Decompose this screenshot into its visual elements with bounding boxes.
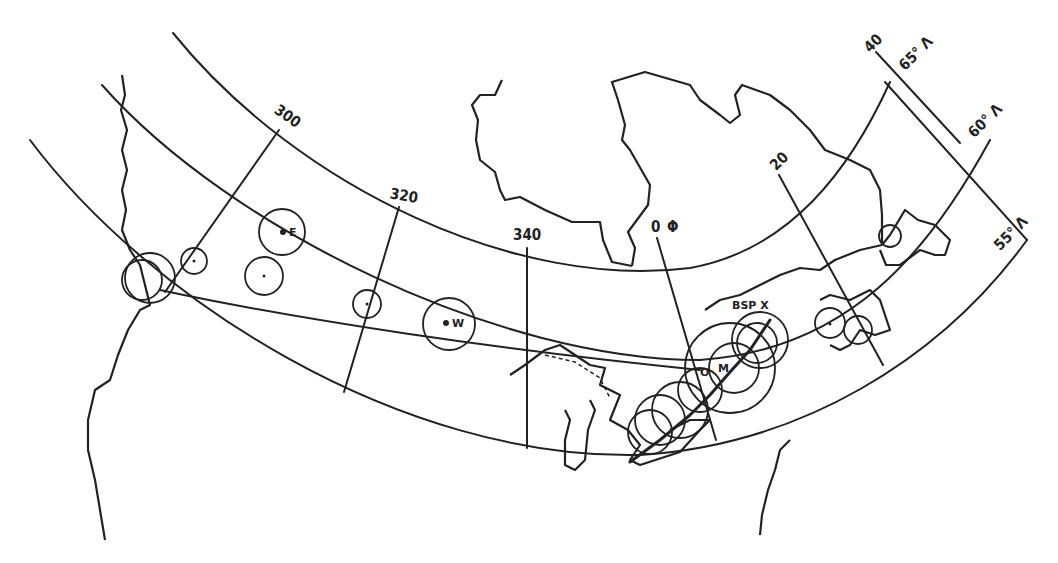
geomagnetic-map: 300 320 340 0 Φ 20 40 65° Λ 60° Λ 55° Λ …: [0, 0, 1058, 563]
atlantic-coast: [760, 440, 790, 535]
label-station-W: W: [452, 317, 464, 330]
label-300: 300: [271, 101, 304, 132]
hudson-bay-west: [472, 80, 632, 266]
latitude-labels: 65° Λ 60° Λ 55° Λ: [895, 32, 1032, 254]
map-canvas: 300 320 340 0 Φ 20 40 65° Λ 60° Λ 55° Λ …: [0, 0, 1058, 563]
dot-E: [280, 229, 286, 235]
dot-W: [443, 320, 449, 326]
label-phi: Φ: [667, 218, 678, 236]
label-lat55: 55° Λ: [990, 212, 1032, 254]
label-station-BSP: BSP X: [732, 299, 769, 312]
arc-outer-edge: [885, 82, 1027, 240]
lake-michigan: [565, 400, 595, 470]
label-station-M: M: [718, 362, 729, 375]
label-station-E: E: [289, 226, 297, 239]
label-lat60: 60° Λ: [964, 99, 1006, 141]
circle-station-W: [423, 298, 475, 350]
meridian-labels: 300 320 340 0 Φ 20 40: [271, 30, 886, 244]
label-320: 320: [389, 184, 420, 207]
label-lat65: 65° Λ: [895, 32, 937, 74]
label-0: 0: [651, 218, 660, 236]
label-station-O: O: [700, 366, 709, 379]
meridian-320: [344, 207, 399, 392]
latitude-arcs: [30, 33, 1027, 455]
meridian-40: [876, 52, 960, 143]
coastlines: [88, 72, 950, 540]
border-dashed: [545, 355, 610, 398]
labrador-newfoundland: [880, 210, 950, 265]
station-circles: [122, 209, 901, 454]
dot-a: [193, 260, 196, 263]
pacific-coast: [88, 75, 150, 540]
circle-toronto-1: [652, 382, 708, 438]
label-20: 20: [766, 148, 792, 174]
station-labels: E W BSP X M O: [289, 226, 769, 379]
dot-c: [366, 303, 369, 306]
circle-toronto-2: [635, 395, 685, 445]
label-340: 340: [513, 226, 541, 244]
dot-b: [263, 275, 266, 278]
hudson-bay-east: [612, 72, 882, 266]
maritimes: [820, 290, 890, 350]
label-40: 40: [860, 30, 886, 56]
dot-maritimes: [829, 323, 832, 326]
